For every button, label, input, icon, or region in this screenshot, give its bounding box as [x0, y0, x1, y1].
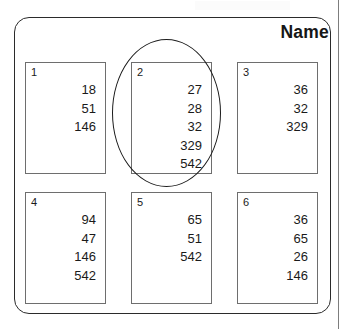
cell-value: 65 — [132, 211, 202, 230]
cell-6[interactable]: 6 36 65 26 146 — [237, 192, 318, 304]
cell-index-label: 4 — [31, 196, 37, 208]
cell-value: 47 — [26, 230, 96, 249]
cell-value: 65 — [238, 230, 308, 249]
cell-value: 542 — [132, 155, 202, 174]
cell-value: 146 — [26, 118, 96, 137]
diagram-canvas: Name 1 18 51 146 2 27 28 32 329 542 3 36… — [0, 0, 345, 329]
cell-value-list: 36 65 26 146 — [238, 211, 308, 285]
cell-value: 36 — [238, 211, 308, 230]
scan-artifact-top — [195, 1, 290, 10]
cell-value-list: 18 51 146 — [26, 81, 96, 137]
cell-2[interactable]: 2 27 28 32 329 542 — [131, 62, 212, 174]
cell-index-label: 3 — [243, 66, 249, 78]
cell-value: 329 — [238, 118, 308, 137]
cell-4[interactable]: 4 94 47 146 542 — [25, 192, 106, 304]
cell-value-list: 65 51 542 — [132, 211, 202, 267]
cell-value: 542 — [132, 248, 202, 267]
cell-index-label: 2 — [137, 66, 143, 78]
cell-value: 36 — [238, 81, 308, 100]
cell-value: 329 — [132, 137, 202, 156]
cell-value-list: 27 28 32 329 542 — [132, 81, 202, 174]
cell-1[interactable]: 1 18 51 146 — [25, 62, 106, 174]
cell-value: 32 — [238, 100, 308, 119]
cell-value: 51 — [26, 100, 96, 119]
cell-index-label: 6 — [243, 196, 249, 208]
cell-value: 27 — [132, 81, 202, 100]
cell-value: 18 — [26, 81, 96, 100]
frame-title: Name — [281, 22, 329, 43]
cell-value: 94 — [26, 211, 96, 230]
cell-index-label: 5 — [137, 196, 143, 208]
cell-value: 51 — [132, 230, 202, 249]
cell-5[interactable]: 5 65 51 542 — [131, 192, 212, 304]
cell-value: 542 — [26, 267, 96, 286]
cell-3[interactable]: 3 36 32 329 — [237, 62, 318, 174]
page-edge-line — [338, 0, 339, 329]
cell-value: 28 — [132, 100, 202, 119]
cell-value: 26 — [238, 248, 308, 267]
cell-value-list: 94 47 146 542 — [26, 211, 96, 285]
cell-value-list: 36 32 329 — [238, 81, 308, 137]
cell-value: 146 — [26, 248, 96, 267]
cell-index-label: 1 — [31, 66, 37, 78]
cell-value: 32 — [132, 118, 202, 137]
cell-value: 146 — [238, 267, 308, 286]
